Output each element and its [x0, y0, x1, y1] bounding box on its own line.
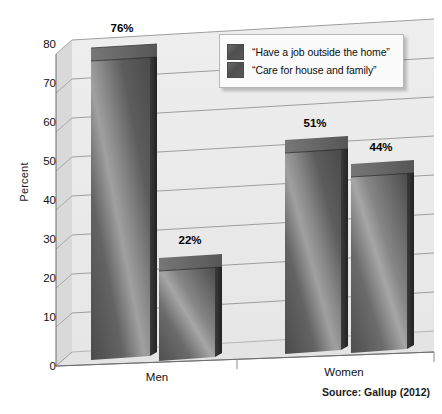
bar-men-job[interactable]	[91, 44, 157, 360]
y-tick-70: 70	[30, 77, 56, 89]
y-tick-30: 30	[30, 233, 56, 245]
y-tick-10: 10	[30, 311, 56, 323]
bar-value-women-care: 44%	[369, 141, 392, 153]
bar-value-men-job: 76%	[110, 22, 133, 34]
legend-swatch-job-icon	[227, 44, 244, 60]
legend-item-care[interactable]: “Care for house and family”	[227, 62, 395, 78]
bar-value-men-care: 22%	[178, 234, 201, 246]
y-tick-0: 0	[30, 360, 56, 372]
y-tick-80: 80	[30, 38, 56, 50]
bar-value-women-job: 51%	[303, 117, 326, 129]
source-note: Source: Gallup (2012)	[322, 386, 430, 398]
y-tick-60: 60	[30, 116, 56, 128]
legend-label-job: “Have a job outside the home”	[252, 46, 390, 58]
x-label-women: Women	[324, 366, 363, 378]
y-tick-50: 50	[30, 155, 56, 167]
legend-swatch-care-icon	[227, 62, 244, 78]
legend-item-job[interactable]: “Have a job outside the home”	[227, 44, 395, 60]
chart-legend: “Have a job outside the home” “Care for …	[219, 34, 404, 88]
bar-women-care[interactable]	[351, 160, 414, 353]
chart-container: Percent 80 70 60 50 40 30 20 10 0 76% 22…	[0, 0, 442, 414]
y-tick-20: 20	[30, 272, 56, 284]
legend-label-care: “Care for house and family”	[252, 64, 377, 76]
y-tick-40: 40	[30, 194, 56, 206]
y-axis-labels: 80 70 60 50 40 30 20 10 0	[22, 0, 56, 414]
bar-women-job[interactable]	[285, 136, 348, 354]
x-label-men: Men	[146, 371, 168, 383]
bar-men-care[interactable]	[159, 254, 222, 361]
